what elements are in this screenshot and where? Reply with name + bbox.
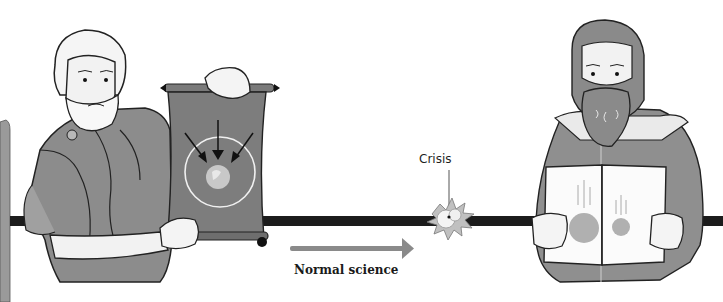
left-pillar <box>0 120 10 302</box>
crisis-label: Crisis <box>419 152 451 166</box>
paradigm-shift-diagram <box>0 0 723 302</box>
philosopher-figure <box>24 30 172 282</box>
normal-science-label: Normal science <box>294 263 398 277</box>
normal-science-arrow[interactable] <box>290 238 414 259</box>
crisis-burst-icon[interactable] <box>427 170 474 240</box>
